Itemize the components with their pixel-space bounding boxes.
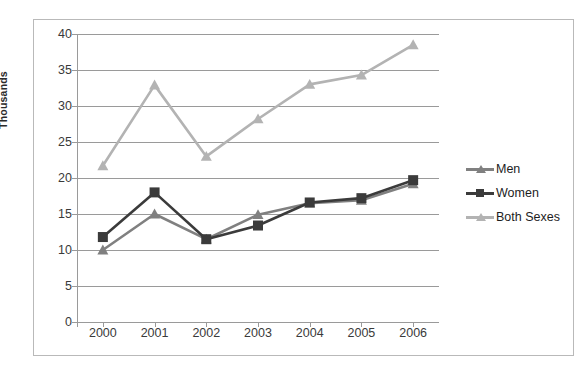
data-point-marker (253, 221, 263, 231)
data-point-marker (408, 39, 419, 49)
y-axis-tick-label: 35 (38, 63, 72, 77)
data-point-marker (149, 80, 160, 90)
line-chart: Thousands 0510152025303540 2000200120022… (0, 0, 585, 365)
y-axis-tick-label: 30 (38, 99, 72, 113)
legend-item-label: Both Sexes (496, 210, 560, 224)
data-point-marker (305, 197, 315, 207)
series-both-sexes (97, 39, 418, 170)
data-point-marker (201, 234, 211, 244)
data-point-marker (150, 187, 160, 197)
series-layer (77, 34, 439, 322)
y-axis-title: Thousands (0, 40, 11, 160)
x-axis-tick-labels: 2000200120022003200420052006 (77, 326, 439, 346)
y-axis-tick-label: 10 (38, 243, 72, 257)
y-axis-tick-label: 5 (38, 279, 72, 293)
y-axis-tick-labels: 0510152025303540 (34, 34, 72, 322)
legend-item-label: Men (496, 162, 520, 176)
y-axis-tick-label: 20 (38, 171, 72, 185)
y-axis-tick-label: 40 (38, 27, 72, 41)
legend-item-label: Women (496, 186, 539, 200)
legend-swatch-icon (466, 187, 494, 199)
legend-item-both-sexes[interactable]: Both Sexes (466, 205, 566, 229)
y-axis-tick-label: 15 (38, 207, 72, 221)
legend-swatch-icon (466, 163, 494, 175)
y-axis-tick-label: 0 (38, 315, 72, 329)
data-point-marker (98, 232, 108, 242)
series-men (97, 178, 418, 254)
plot-area (77, 34, 439, 322)
data-point-marker (408, 175, 418, 185)
chart-legend: MenWomenBoth Sexes (466, 157, 566, 229)
legend-item-women[interactable]: Women (466, 181, 566, 205)
data-point-marker (356, 193, 366, 203)
x-axis-tick-label: 2006 (383, 326, 443, 340)
legend-item-men[interactable]: Men (466, 157, 566, 181)
data-point-marker (149, 209, 160, 219)
series-line (103, 45, 413, 166)
y-axis-tick-label: 25 (38, 135, 72, 149)
chart-title (42, 0, 342, 3)
legend-swatch-icon (466, 211, 494, 223)
